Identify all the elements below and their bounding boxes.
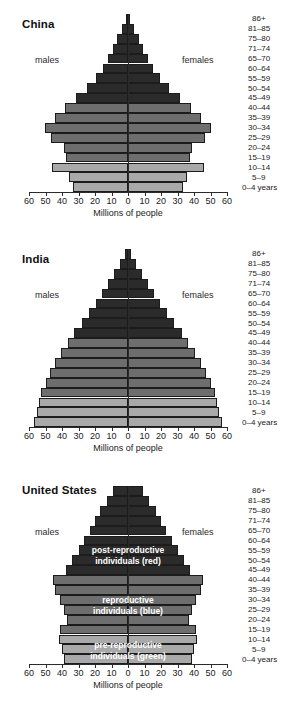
bar-male-post-reproductive [107,496,128,506]
x-axis-tick-label: 50 [205,431,215,441]
x-axis: 6050403020100102030405060Millions of peo… [0,192,299,212]
x-axis-tick-label: 20 [90,668,100,678]
bar-male-post-reproductive [79,545,129,555]
bar-female-reproductive [128,153,190,163]
pyramid-panel-india: Indiamalesfemales86+81–8575–8071–7465–70… [0,243,299,461]
bar-female-pre-reproductive [128,417,222,427]
pyramid-row [0,506,299,516]
x-axis-tick-label: 20 [90,196,100,206]
pyramid-row [0,595,299,605]
pyramid-row [0,585,299,595]
bar-male-pre-reproductive [37,407,128,417]
pyramid-row [0,153,299,163]
bar-male-reproductive [61,348,128,358]
bar-male-reproductive [41,388,128,398]
pyramid-row [0,526,299,536]
x-axis-tick-label: 40 [189,431,199,441]
pyramid-row [0,417,299,427]
bar-female-reproductive [128,625,196,635]
bar-female-reproductive [128,338,188,348]
pyramid-row [0,605,299,615]
bar-male-post-reproductive [95,516,128,526]
bar-female-post-reproductive [128,318,174,328]
bar-female-pre-reproductive [128,182,183,192]
x-axis-tick-label: 30 [73,431,83,441]
bar-female-reproductive [128,388,215,398]
bar-female-post-reproductive [128,565,190,575]
bar-female-reproductive [128,615,189,625]
plot-area [0,14,299,192]
x-axis-tick-label: 20 [156,668,166,678]
x-axis-tick-label: 30 [172,431,182,441]
bar-female-reproductive [128,368,206,378]
pyramid-row [0,83,299,93]
bar-female-pre-reproductive [128,654,192,664]
bar-female-post-reproductive [128,259,136,269]
bar-male-post-reproductive [89,308,128,318]
bar-female-post-reproductive [128,506,156,516]
bar-female-reproductive [128,113,201,123]
x-axis-title: Millions of people [58,443,198,453]
pyramid-row [0,407,299,417]
pyramid-row [0,555,299,565]
x-axis-tick-label: 0 [125,431,130,441]
bar-male-reproductive [46,378,129,388]
bar-male-pre-reproductive [39,398,128,408]
bar-male-reproductive [65,103,128,113]
x-axis-tick-label: 50 [40,196,50,206]
bar-male-reproductive [64,605,128,615]
pyramid-row [0,14,299,24]
pyramid-row [0,545,299,555]
bar-female-post-reproductive [128,269,142,279]
bar-male-post-reproductive [103,64,128,74]
pyramid-row [0,24,299,34]
bar-female-reproductive [128,123,211,133]
bar-male-reproductive [60,625,128,635]
pyramid-row [0,398,299,408]
pyramid-row [0,163,299,173]
x-axis-title: Millions of people [58,208,198,218]
bar-female-reproductive [128,133,205,143]
pyramid-row [0,182,299,192]
bar-female-reproductive [128,585,201,595]
bar-male-reproductive [60,595,128,605]
bar-female-pre-reproductive [128,398,217,408]
bar-male-reproductive [64,143,128,153]
x-axis-tick-label: 30 [172,196,182,206]
bar-female-reproductive [128,348,195,358]
bar-male-reproductive [55,358,128,368]
pyramid-row [0,536,299,546]
bar-female-post-reproductive [128,545,178,555]
x-axis-tick-label: 40 [57,196,67,206]
pyramid-row [0,328,299,338]
bar-male-post-reproductive [74,328,128,338]
bar-female-post-reproductive [128,73,160,83]
zero-axis-line [128,249,129,427]
x-axis-tick-label: 50 [40,431,50,441]
x-axis: 6050403020100102030405060Millions of peo… [0,664,299,684]
x-axis-tick-label: 20 [156,431,166,441]
pyramid-row [0,308,299,318]
pyramid-row [0,486,299,496]
bar-female-post-reproductive [128,308,167,318]
pyramid-panel-united-states: United Statesmalesfemales86+81–8575–8071… [0,478,299,696]
bar-female-post-reproductive [128,83,169,93]
bar-male-reproductive [55,585,128,595]
bar-female-post-reproductive [128,289,154,299]
bar-male-reproductive [53,575,128,585]
x-axis-tick-label: 0 [125,196,130,206]
x-axis-tick-label: 60 [222,431,232,441]
bar-male-post-reproductive [113,486,128,496]
bar-male-post-reproductive [108,54,128,64]
bar-male-pre-reproductive [62,644,128,654]
pyramid-row [0,635,299,645]
bar-male-post-reproductive [96,299,128,309]
bar-male-post-reproductive [82,318,128,328]
x-axis-tick-label: 40 [189,668,199,678]
bar-male-post-reproductive [76,93,128,103]
pyramid-row [0,368,299,378]
x-axis-tick-label: 30 [73,668,83,678]
pyramid-row [0,299,299,309]
x-axis-tick-label: 10 [139,196,149,206]
bar-male-reproductive [51,133,128,143]
